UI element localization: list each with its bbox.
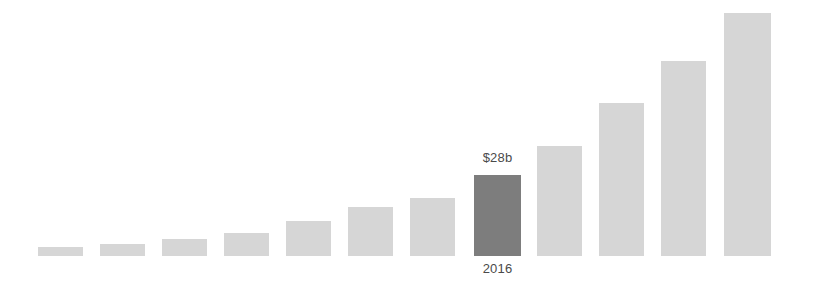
bar-6[interactable] <box>410 198 455 256</box>
bar-10[interactable] <box>661 61 706 256</box>
bar-0[interactable] <box>38 247 83 256</box>
bar-8[interactable] <box>537 146 582 256</box>
bar-value-label-2016: $28b <box>454 150 541 165</box>
bar-2[interactable] <box>162 239 207 256</box>
bar-5[interactable] <box>348 207 393 256</box>
bar-3[interactable] <box>224 233 269 256</box>
bar-chart: $28b 2016 <box>0 0 823 293</box>
bar-category-label-2016: 2016 <box>454 261 541 276</box>
bar-1[interactable] <box>100 244 145 256</box>
bar-4[interactable] <box>286 221 331 256</box>
plot-area: $28b 2016 <box>0 0 823 293</box>
bar-7-highlighted-2016[interactable] <box>474 175 521 256</box>
bar-11[interactable] <box>724 13 771 256</box>
bar-9[interactable] <box>599 103 644 256</box>
